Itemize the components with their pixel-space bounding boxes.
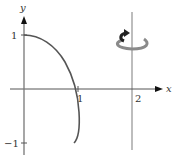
x-axis-label: x bbox=[166, 83, 172, 94]
x-tick-label-1: 1 bbox=[77, 93, 83, 104]
y-axis-label: y bbox=[19, 2, 26, 13]
y-axis-arrow-icon bbox=[21, 16, 27, 24]
diagram-canvas: y x 1 −1 1 2 bbox=[0, 0, 178, 167]
y-tick-label-minus-1: −1 bbox=[4, 138, 19, 149]
x-tick-label-2: 2 bbox=[135, 93, 141, 104]
y-tick-label-1: 1 bbox=[11, 30, 17, 41]
x-axis-arrow-icon bbox=[155, 86, 163, 92]
